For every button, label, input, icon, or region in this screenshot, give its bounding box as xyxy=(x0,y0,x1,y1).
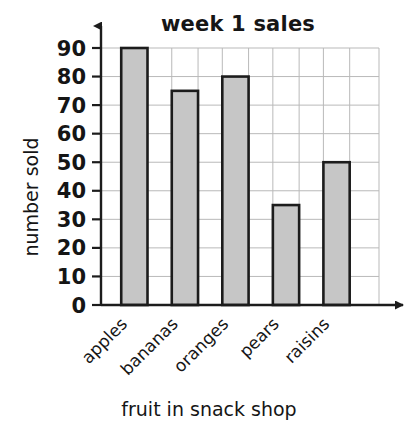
svg-text:90: 90 xyxy=(57,37,86,61)
svg-text:10: 10 xyxy=(57,265,86,289)
bar-chart: week 1 sales number sold fruit in snack … xyxy=(0,0,418,432)
svg-text:70: 70 xyxy=(57,94,86,118)
category-label: pears xyxy=(235,314,283,362)
svg-text:50: 50 xyxy=(57,151,86,175)
svg-text:40: 40 xyxy=(57,179,86,203)
category-label: oranges xyxy=(170,314,233,377)
y-axis-ticks: 0102030405060708090 xyxy=(57,37,101,318)
category-labels: applesbananasorangespearsraisins xyxy=(77,314,333,379)
bars xyxy=(121,48,349,305)
svg-text:20: 20 xyxy=(57,236,86,260)
svg-text:60: 60 xyxy=(57,122,86,146)
plot-area: 0102030405060708090 applesbananasoranges… xyxy=(0,0,418,432)
svg-text:30: 30 xyxy=(57,208,86,232)
svg-text:80: 80 xyxy=(57,65,86,89)
svg-text:0: 0 xyxy=(71,294,86,318)
category-label: raisins xyxy=(280,314,333,367)
